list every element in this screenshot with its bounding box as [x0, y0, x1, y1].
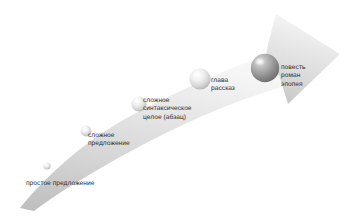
label-line: роман [281, 72, 305, 80]
node-label-glava-rasskaz: глава рассказ [211, 77, 235, 94]
sphere-glava-rasskaz [189, 68, 210, 89]
sphere-povest-roman-epopeya [251, 54, 279, 82]
node-label-prostoe-predlozhenie: простое предложение [26, 180, 94, 188]
node-label-slozhnoe-sintaksicheskoe-tseloe: сложное синтаксическое целое (абзац) [143, 97, 192, 122]
label-line: простое предложение [26, 180, 94, 188]
label-line: повесть [281, 64, 305, 72]
label-line: предложение [88, 140, 130, 148]
label-line: рассказ [211, 85, 235, 93]
node-label-povest-roman-epopeya: повесть роман эпопея [281, 64, 305, 89]
node-label-slozhnoe-predlozhenie: сложное предложение [88, 132, 130, 149]
label-line: глава [211, 77, 235, 85]
label-line: сложное [88, 132, 130, 140]
sphere-prostoe-predlozhenie [43, 162, 50, 169]
label-line: синтаксическое [143, 105, 192, 113]
label-line: сложное [143, 97, 192, 105]
label-line: целое (абзац) [143, 114, 192, 122]
label-line: эпопея [281, 81, 305, 89]
diagram-canvas: простое предложение сложное предложение … [0, 0, 347, 224]
